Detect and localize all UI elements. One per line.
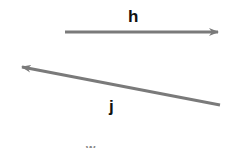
vector-h-label: h [128, 8, 138, 25]
vector-diagram [0, 0, 232, 148]
vector-j-label: j [109, 98, 114, 115]
vector-j-arrow [22, 67, 220, 105]
partial-label: w [86, 143, 95, 148]
